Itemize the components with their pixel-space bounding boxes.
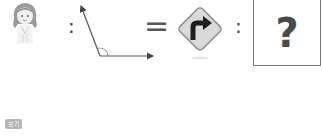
ratio-colon-2: : — [235, 16, 242, 36]
equals-sign: = — [144, 11, 169, 41]
answer-box: ? — [253, 0, 321, 66]
options-badge: 보기 — [5, 119, 22, 129]
right-turn-sign-icon — [171, 0, 229, 62]
question-mark: ? — [275, 13, 298, 53]
girl-icon — [8, 0, 42, 46]
